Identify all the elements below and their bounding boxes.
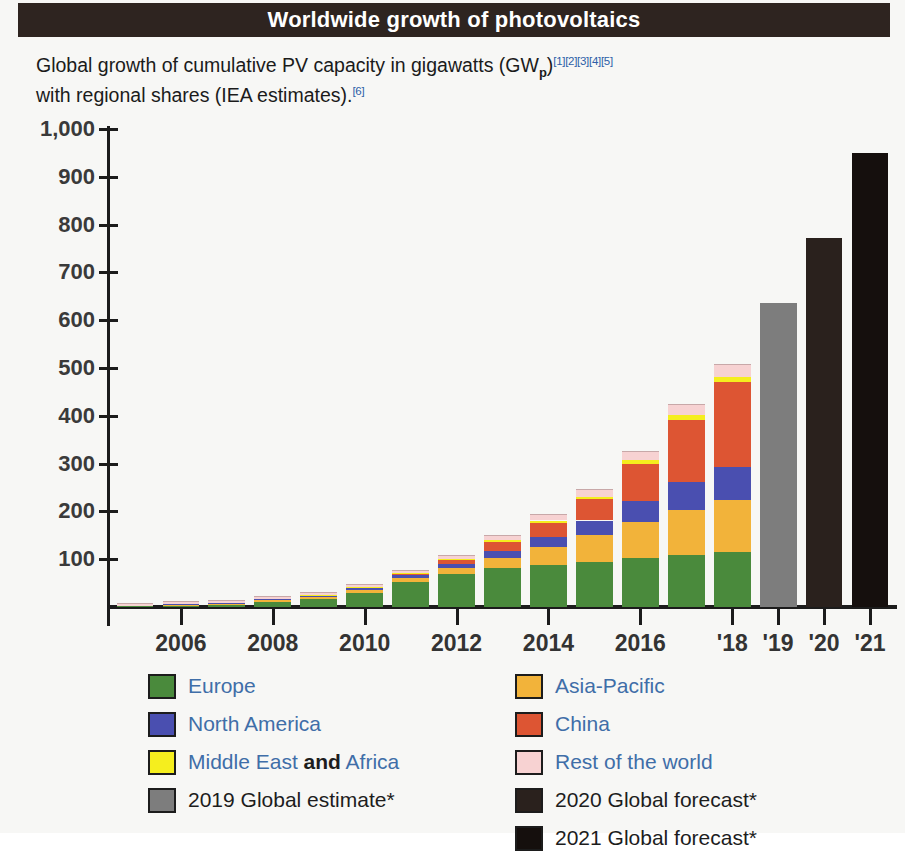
y-tick-700 xyxy=(99,271,118,274)
x-tick-2018 xyxy=(731,609,734,625)
legend-label-china: China xyxy=(555,712,610,736)
bar-2016 xyxy=(622,452,659,607)
y-tick-1000 xyxy=(99,128,118,131)
bar-segment-2017-middle_east_africa xyxy=(668,415,705,420)
x-axis-label-2014: 2014 xyxy=(523,630,574,657)
bar-2017 xyxy=(668,405,705,607)
legend-label-estimate_2019: 2019 Global estimate* xyxy=(188,788,395,812)
bars-container xyxy=(0,118,905,607)
bar-segment-2017-north_america xyxy=(668,482,705,510)
x-axis-label-2018: '18 xyxy=(717,630,748,657)
plot-area: 1002003004005006007008009001,000 2006200… xyxy=(0,118,905,663)
bar-segment-2015-asia_pacific xyxy=(576,535,613,561)
x-axis-label-2016: 2016 xyxy=(615,630,666,657)
legend-label-rest_of_world: Rest of the world xyxy=(555,750,713,774)
legend-item-asia_pacific[interactable]: Asia-Pacific xyxy=(515,668,757,704)
y-tick-200 xyxy=(99,510,118,513)
bar-segment-2011-asia_pacific xyxy=(392,578,429,582)
x-axis-label-2012: 2012 xyxy=(431,630,482,657)
bar-segment-2020-forecast_2020 xyxy=(806,238,843,607)
bar-segment-2005-rest_of_world xyxy=(117,603,154,606)
legend-label-forecast_2020: 2020 Global forecast* xyxy=(555,788,757,812)
y-tick-400 xyxy=(99,415,118,418)
legend-label-forecast_2021: 2021 Global forecast* xyxy=(555,826,757,850)
bar-segment-2018-asia_pacific xyxy=(714,500,751,552)
x-tick-2008 xyxy=(272,609,275,625)
bar-segment-2014-asia_pacific xyxy=(530,547,567,565)
legend-item-europe[interactable]: Europe xyxy=(148,668,399,704)
x-axis-label-2008: 2008 xyxy=(247,630,298,657)
legend-label-asia_pacific: Asia-Pacific xyxy=(555,674,665,698)
y-tick-300 xyxy=(99,463,118,466)
page-title: Worldwide growth of photovoltaics xyxy=(268,7,641,33)
x-tick-2020 xyxy=(823,609,826,625)
legend-label-north_america: North America xyxy=(188,712,321,736)
color-swatch-icon-estimate_2019 xyxy=(148,788,176,813)
legend-label-europe: Europe xyxy=(188,674,256,698)
bar-2010 xyxy=(346,585,383,607)
legend-item-china[interactable]: China xyxy=(515,706,757,742)
y-tick-900 xyxy=(99,176,118,179)
bar-segment-2018-china xyxy=(714,382,751,467)
legend-column-left: EuropeNorth AmericaMiddle East and Afric… xyxy=(148,668,399,820)
x-axis-label-2021: '21 xyxy=(854,630,885,657)
y-tick-500 xyxy=(99,367,118,370)
bar-segment-2016-north_america xyxy=(622,501,659,523)
bar-segment-2008-europe xyxy=(254,602,291,607)
bar-segment-2021-forecast_2021 xyxy=(852,153,889,607)
bar-segment-2015-middle_east_africa xyxy=(576,497,613,500)
bar-segment-2017-rest_of_world xyxy=(668,404,705,415)
bar-2008 xyxy=(254,598,291,607)
bar-2014 xyxy=(530,515,567,607)
bar-2005 xyxy=(117,605,154,607)
y-tick-100 xyxy=(99,558,118,561)
color-swatch-icon-forecast_2021 xyxy=(515,826,543,851)
legend-item-north_america[interactable]: North America xyxy=(148,706,399,742)
legend-item-rest_of_world[interactable]: Rest of the world xyxy=(515,744,757,780)
x-tick-2012 xyxy=(456,609,459,625)
bar-segment-2016-china xyxy=(622,464,659,501)
caption-references-2[interactable]: [6] xyxy=(352,85,364,97)
caption-subscript: p xyxy=(539,65,547,80)
bar-segment-2014-north_america xyxy=(530,537,567,547)
bar-2011 xyxy=(392,571,429,607)
legend-item-estimate_2019[interactable]: 2019 Global estimate* xyxy=(148,782,399,818)
bar-2015 xyxy=(576,490,613,607)
x-tick-2014 xyxy=(547,609,550,625)
y-tick-600 xyxy=(99,319,118,322)
bar-2020 xyxy=(806,238,843,607)
bar-segment-2007-europe xyxy=(208,605,245,607)
bar-segment-2017-china xyxy=(668,420,705,482)
bar-segment-2008-rest_of_world xyxy=(254,596,291,599)
color-swatch-icon-middle_east_africa xyxy=(148,750,176,775)
x-tick-2006 xyxy=(180,609,183,625)
x-axis-label-2006: 2006 xyxy=(155,630,206,657)
legend-item-middle_east_africa[interactable]: Middle East and Africa xyxy=(148,744,399,780)
bar-segment-2014-europe xyxy=(530,565,567,607)
bar-segment-2018-north_america xyxy=(714,467,751,500)
bar-2009 xyxy=(300,594,337,607)
bar-segment-2012-asia_pacific xyxy=(438,568,475,574)
caption-line2: with regional shares (IEA estimates). xyxy=(36,84,352,106)
bar-segment-2016-rest_of_world xyxy=(622,451,659,460)
color-swatch-icon-north_america xyxy=(148,712,176,737)
bar-segment-2013-china xyxy=(484,542,521,551)
bar-segment-2011-europe xyxy=(392,582,429,607)
color-swatch-icon-europe xyxy=(148,674,176,699)
bar-segment-2016-middle_east_africa xyxy=(622,460,659,464)
bar-segment-2015-china xyxy=(576,499,613,520)
bar-segment-2009-europe xyxy=(300,599,337,607)
caption-references-1[interactable]: [1][2][3][4][5] xyxy=(553,55,612,67)
x-tick-2019 xyxy=(777,609,780,625)
legend-item-forecast_2021[interactable]: 2021 Global forecast* xyxy=(515,820,757,855)
bar-segment-2014-middle_east_africa xyxy=(530,521,567,523)
bar-segment-2017-asia_pacific xyxy=(668,510,705,555)
bar-segment-2009-asia_pacific xyxy=(300,597,337,599)
bar-segment-2019-estimate_2019 xyxy=(760,303,797,607)
x-tick-2016 xyxy=(639,609,642,625)
x-tick-2010 xyxy=(364,609,367,625)
legend-item-forecast_2020[interactable]: 2020 Global forecast* xyxy=(515,782,757,818)
bar-segment-2010-europe xyxy=(346,593,383,607)
chart-title-bar: Worldwide growth of photovoltaics xyxy=(18,3,890,37)
bar-segment-2014-rest_of_world xyxy=(530,514,567,520)
